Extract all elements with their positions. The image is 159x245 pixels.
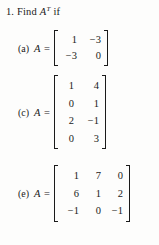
- matrix-a-cell: −3: [59, 48, 79, 64]
- matrix-e-cell: 7: [81, 167, 103, 185]
- exercise-part-e: (e) A = 1 7 0 6 1 2 −1 0 −1: [18, 165, 130, 222]
- matrix-symbol: A: [40, 6, 47, 17]
- matrix-a-grid: 1 −3 −3 0: [58, 30, 104, 66]
- matrix-c-left-bracket: [54, 75, 58, 149]
- transpose-superscript: T: [47, 5, 51, 13]
- matrix-e-cell: −1: [103, 202, 125, 220]
- part-e-matrix-symbol: A: [34, 188, 40, 199]
- matrix-c-cell: 3: [73, 130, 101, 148]
- matrix-c-cell: −1: [73, 112, 101, 130]
- part-c-matrix-symbol: A: [34, 107, 40, 118]
- matrix-a-cell: 1: [59, 32, 79, 48]
- part-label-a: (a): [18, 43, 29, 54]
- matrix-c-cell: 4: [73, 77, 101, 95]
- problem-number: 1.: [6, 6, 14, 17]
- part-e-equals-sign: =: [44, 188, 50, 199]
- matrix-c-cell: 1: [73, 95, 101, 113]
- problem-statement: 1.FindATif: [6, 5, 60, 18]
- matrix-e-cell: 2: [103, 185, 125, 203]
- exercise-part-c: (c) A = 1 4 0 1 2 −1 0 3: [18, 75, 106, 149]
- matrix-e-cell: 0: [81, 202, 103, 220]
- part-label-c: (c): [18, 107, 29, 118]
- matrix-a-cell: 0: [79, 48, 103, 64]
- part-c-equals-sign: =: [44, 107, 50, 118]
- matrix-e: 1 7 0 6 1 2 −1 0 −1: [54, 165, 130, 222]
- matrix-c: 1 4 0 1 2 −1 0 3: [54, 75, 106, 149]
- matrix-e-cell: 0: [103, 167, 125, 185]
- problem-stem: Find: [17, 6, 37, 17]
- matrix-a-right-bracket: [104, 30, 108, 66]
- matrix-e-left-bracket: [54, 165, 58, 222]
- matrix-e-right-bracket: [126, 165, 130, 222]
- matrix-e-cell: 6: [59, 185, 81, 203]
- matrix-c-right-bracket: [102, 75, 106, 149]
- part-label-e: (e): [18, 188, 29, 199]
- part-a-equals-sign: =: [44, 43, 50, 54]
- part-a-matrix-symbol: A: [34, 43, 40, 54]
- matrix-a-cell: −3: [79, 32, 103, 48]
- matrix-a-left-bracket: [54, 30, 58, 66]
- matrix-e-cell: 1: [59, 167, 81, 185]
- matrix-a: 1 −3 −3 0: [54, 30, 108, 66]
- exercise-page: 1.FindATif (a) A = 1 −3 −3 0 (c) A = 1 4…: [0, 0, 159, 245]
- matrix-e-cell: −1: [59, 202, 81, 220]
- problem-conditional: if: [54, 6, 61, 17]
- exercise-part-a: (a) A = 1 −3 −3 0: [18, 30, 108, 66]
- matrix-c-grid: 1 4 0 1 2 −1 0 3: [58, 75, 102, 149]
- matrix-e-grid: 1 7 0 6 1 2 −1 0 −1: [58, 165, 126, 222]
- matrix-e-cell: 1: [81, 185, 103, 203]
